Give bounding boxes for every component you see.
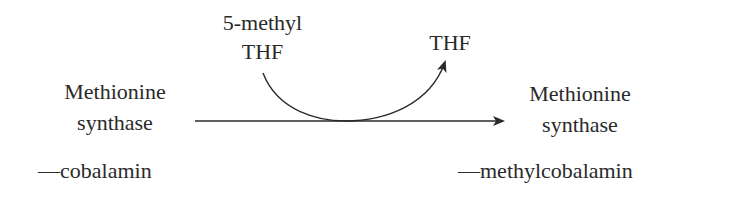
product-enzyme-label: Methionine synthase <box>500 78 660 140</box>
cosubstrate-in-line1: 5-methyl <box>205 8 320 37</box>
reactant-line2: synthase <box>35 107 195 138</box>
reactant-line1: Methionine <box>35 76 195 107</box>
cosubstrate-out-label: THF <box>420 32 480 54</box>
product-cofactor-label: —methylcobalamin <box>458 160 633 182</box>
cosubstrate-in-line2: THF <box>205 37 320 66</box>
product-line2: synthase <box>500 109 660 140</box>
reactant-cofactor-label: —cobalamin <box>38 160 152 182</box>
cosubstrate-curved-arrow <box>263 62 445 121</box>
reactant-enzyme-label: Methionine synthase <box>35 76 195 138</box>
product-line1: Methionine <box>500 78 660 109</box>
cosubstrate-in-label: 5-methyl THF <box>205 8 320 66</box>
